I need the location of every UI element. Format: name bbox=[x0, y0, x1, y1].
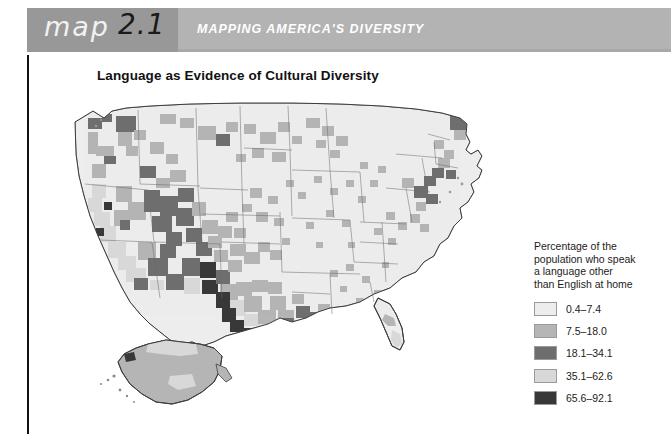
map-legend: Percentage of the population who speak a… bbox=[534, 240, 666, 409]
legend-title-line-1: Percentage of the bbox=[534, 240, 666, 253]
legend-item: 18.1–34.1 bbox=[534, 342, 666, 364]
left-vertical-rule bbox=[27, 55, 29, 434]
map-figure-page: map 2.1 MAPPING AMERICA'S DIVERSITY Lang… bbox=[0, 0, 671, 434]
map-number-label: 2.1 bbox=[118, 11, 166, 39]
legend-title-line-3: a language other bbox=[534, 265, 666, 278]
legend-label: 18.1–34.1 bbox=[566, 347, 613, 359]
legend-label: 7.5–18.0 bbox=[566, 325, 607, 337]
series-title: MAPPING AMERICA'S DIVERSITY bbox=[197, 22, 424, 36]
legend-swatch bbox=[534, 369, 557, 383]
legend-label: 65.6–92.1 bbox=[566, 392, 613, 404]
legend-items: 0.4–7.4 7.5–18.0 18.1–34.1 35.1–62.6 65.… bbox=[534, 297, 666, 409]
legend-swatch bbox=[534, 346, 557, 360]
legend-item: 7.5–18.0 bbox=[534, 320, 666, 342]
legend-swatch bbox=[534, 324, 557, 338]
legend-label: 0.4–7.4 bbox=[566, 303, 601, 315]
map-word-label: map bbox=[44, 13, 110, 40]
legend-swatch bbox=[534, 391, 557, 405]
choropleth-map bbox=[30, 92, 520, 434]
legend-swatch bbox=[534, 302, 557, 316]
legend-item: 65.6–92.1 bbox=[534, 387, 666, 409]
legend-title: Percentage of the population who speak a… bbox=[534, 240, 666, 290]
legend-title-line-4: than English at home bbox=[534, 278, 666, 291]
figure-title: Language as Evidence of Cultural Diversi… bbox=[97, 68, 379, 83]
legend-item: 35.1–62.6 bbox=[534, 365, 666, 387]
legend-title-line-2: population who speak bbox=[534, 253, 666, 266]
legend-label: 35.1–62.6 bbox=[566, 370, 613, 382]
legend-item: 0.4–7.4 bbox=[534, 297, 666, 319]
